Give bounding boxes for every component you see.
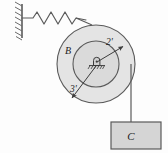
figure-canvas: B 2' 3' C <box>0 0 168 153</box>
label-block-C: C <box>127 130 135 142</box>
label-inner-radius: 2' <box>106 37 114 47</box>
hanging-block <box>111 122 161 149</box>
label-outer-radius: 3' <box>69 84 78 94</box>
wall-hatching <box>15 2 22 40</box>
label-pulley-B: B <box>65 45 71 56</box>
mechanics-figure: B 2' 3' C <box>0 0 168 153</box>
